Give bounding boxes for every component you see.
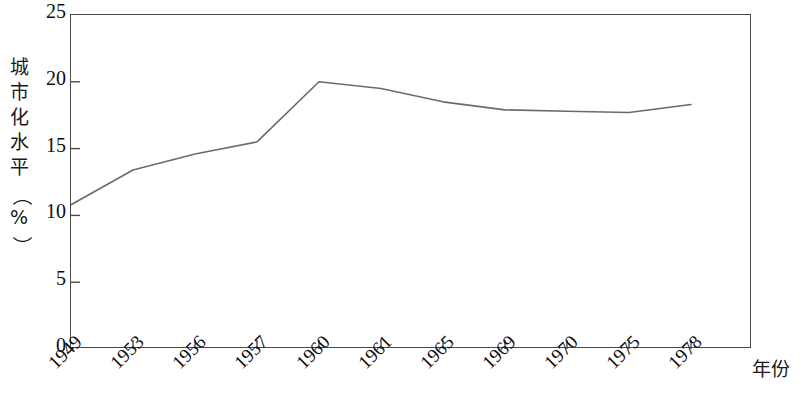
x-axis-tick-label: 1949 [44, 331, 86, 373]
x-axis-tick-label: 1961 [354, 331, 396, 373]
x-axis-tick-label: 1956 [168, 331, 210, 373]
x-axis-tick-label: 1960 [292, 331, 334, 373]
x-axis-tick-label: 1970 [540, 331, 582, 373]
x-axis-tick-label: 1978 [664, 331, 706, 373]
x-axis-tick-label: 1953 [106, 331, 148, 373]
x-axis-tick-label: 1957 [230, 331, 272, 373]
chart-figure: 城 市 化 水 平 （ % ） 0510152025 1949195319561… [0, 0, 805, 398]
x-axis-title: 年份 [752, 354, 790, 381]
x-axis-tick-label: 1965 [416, 331, 458, 373]
x-axis-tick-labels: 1949195319561957196019611965196919701975… [0, 0, 805, 398]
x-axis-tick-label: 1975 [602, 331, 644, 373]
x-axis-tick-label: 1969 [478, 331, 520, 373]
